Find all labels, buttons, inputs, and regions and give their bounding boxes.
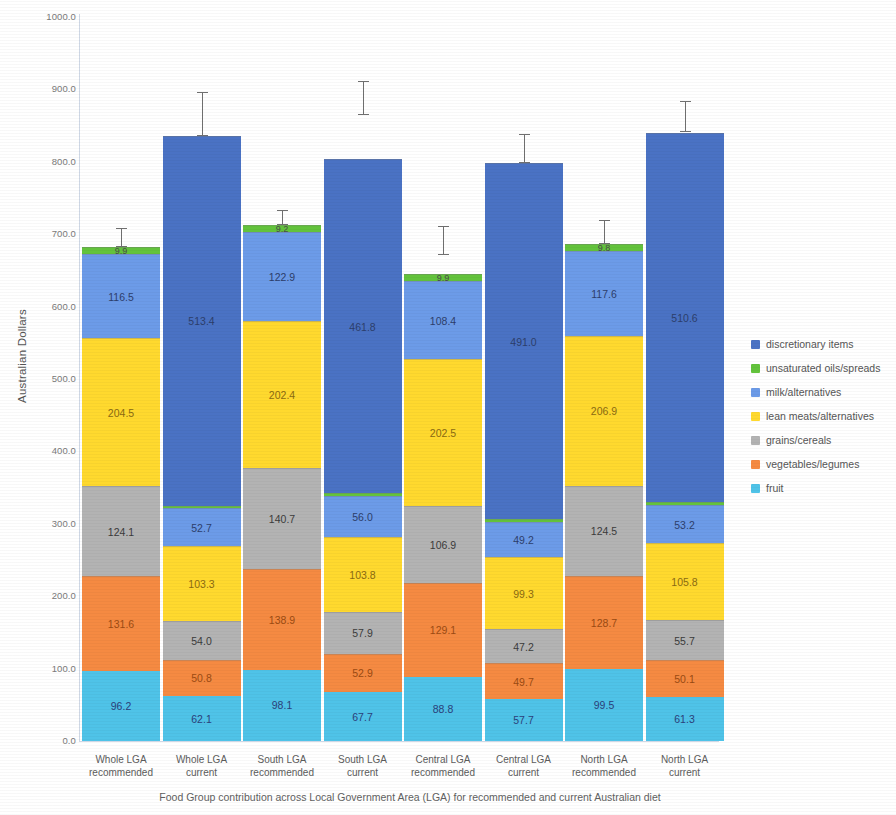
bar-segment-lean-meats-alternatives[interactable]: 105.8 bbox=[646, 543, 724, 620]
legend-item-milk-alternatives[interactable]: milk/alternatives bbox=[751, 380, 880, 404]
bar-segment-fruit[interactable]: 99.5 bbox=[565, 669, 643, 741]
segment-value-label: 138.9 bbox=[243, 614, 321, 626]
bar-whole-lga-recommended[interactable]: 96.2131.6124.1204.5116.59.9 bbox=[82, 247, 160, 741]
bar-segment-milk-alternatives[interactable]: 56.0 bbox=[324, 496, 402, 537]
bar-segment-unsaturated-oils-spreads[interactable] bbox=[485, 519, 563, 522]
bar-segment-vegetables-legumes[interactable]: 138.9 bbox=[243, 569, 321, 670]
y-axis-line bbox=[79, 14, 80, 741]
legend-item-fruit[interactable]: fruit bbox=[751, 476, 880, 500]
x-axis-tick-line: South LGA bbox=[237, 753, 327, 766]
bar-segment-lean-meats-alternatives[interactable]: 202.4 bbox=[243, 321, 321, 468]
bar-segment-discretionary-items[interactable]: 513.4 bbox=[163, 136, 241, 506]
bar-segment-grains-cereals[interactable]: 55.7 bbox=[646, 620, 724, 660]
bar-segment-milk-alternatives[interactable]: 52.7 bbox=[163, 508, 241, 546]
bar-segment-discretionary-items[interactable]: 491.0 bbox=[485, 163, 563, 518]
segment-value-label: 129.1 bbox=[404, 624, 482, 636]
bar-whole-lga-current[interactable]: 62.150.854.0103.352.7513.4 bbox=[163, 136, 241, 741]
x-axis-tick-line: current bbox=[157, 766, 247, 779]
error-bar bbox=[121, 228, 122, 247]
bar-central-lga-current[interactable]: 57.749.747.299.349.2491.0 bbox=[485, 163, 563, 741]
bar-segment-unsaturated-oils-spreads[interactable] bbox=[163, 506, 241, 509]
bar-segment-fruit[interactable]: 62.1 bbox=[163, 696, 241, 741]
legend-label: fruit bbox=[766, 482, 784, 494]
bar-segment-unsaturated-oils-spreads[interactable]: 9.9 bbox=[404, 274, 482, 281]
bar-segment-grains-cereals[interactable]: 54.0 bbox=[163, 621, 241, 660]
chart-legend: discretionary itemsunsaturated oils/spre… bbox=[751, 332, 880, 500]
segment-value-label: 9.9 bbox=[82, 247, 160, 254]
bar-segment-vegetables-legumes[interactable]: 49.7 bbox=[485, 663, 563, 699]
bar-segment-fruit[interactable]: 88.8 bbox=[404, 677, 482, 741]
x-axis-tick-7: North LGAcurrent bbox=[640, 753, 730, 779]
bar-segment-grains-cereals[interactable]: 124.1 bbox=[82, 486, 160, 576]
bar-segment-lean-meats-alternatives[interactable]: 204.5 bbox=[82, 338, 160, 486]
legend-swatch-icon bbox=[751, 460, 760, 469]
segment-value-label: 491.0 bbox=[485, 336, 563, 348]
bar-segment-milk-alternatives[interactable]: 122.9 bbox=[243, 232, 321, 321]
bar-segment-lean-meats-alternatives[interactable]: 103.3 bbox=[163, 546, 241, 620]
bar-north-lga-current[interactable]: 61.350.155.7105.853.2510.6 bbox=[646, 132, 724, 741]
bar-segment-vegetables-legumes[interactable]: 50.1 bbox=[646, 660, 724, 696]
bar-segment-fruit[interactable]: 96.2 bbox=[82, 671, 160, 741]
segment-value-label: 57.7 bbox=[485, 714, 563, 726]
bar-segment-lean-meats-alternatives[interactable]: 202.5 bbox=[404, 359, 482, 506]
x-axis-tick-line: recommended bbox=[76, 766, 166, 779]
bar-segment-vegetables-legumes[interactable]: 131.6 bbox=[82, 576, 160, 671]
legend-item-grains-cereals[interactable]: grains/cereals bbox=[751, 428, 880, 452]
x-axis-tick-line: recommended bbox=[398, 766, 488, 779]
bar-central-lga-recommended[interactable]: 88.8129.1106.9202.5108.49.9 bbox=[404, 274, 482, 741]
bar-segment-vegetables-legumes[interactable]: 128.7 bbox=[565, 576, 643, 669]
bar-segment-fruit[interactable]: 98.1 bbox=[243, 670, 321, 741]
segment-value-label: 124.1 bbox=[82, 526, 160, 538]
bar-segment-milk-alternatives[interactable]: 53.2 bbox=[646, 505, 724, 544]
x-axis-tick-line: North LGA bbox=[640, 753, 730, 766]
bar-south-lga-current[interactable]: 67.752.957.9103.856.0461.8 bbox=[324, 159, 402, 741]
legend-swatch-icon bbox=[751, 388, 760, 397]
bar-segment-milk-alternatives[interactable]: 108.4 bbox=[404, 281, 482, 359]
segment-value-label: 105.8 bbox=[646, 576, 724, 588]
segment-value-label: 131.6 bbox=[82, 618, 160, 630]
bar-segment-unsaturated-oils-spreads[interactable]: 9.9 bbox=[82, 247, 160, 254]
bar-segment-lean-meats-alternatives[interactable]: 103.8 bbox=[324, 537, 402, 612]
bar-segment-fruit[interactable]: 57.7 bbox=[485, 699, 563, 741]
bar-segment-unsaturated-oils-spreads[interactable] bbox=[646, 502, 724, 505]
bar-segment-vegetables-legumes[interactable]: 52.9 bbox=[324, 654, 402, 692]
bar-segment-milk-alternatives[interactable]: 49.2 bbox=[485, 522, 563, 558]
bar-north-lga-recommended[interactable]: 99.5128.7124.5206.9117.69.8 bbox=[565, 244, 643, 741]
x-axis-tick-line: South LGA bbox=[318, 753, 408, 766]
bar-segment-grains-cereals[interactable]: 106.9 bbox=[404, 506, 482, 583]
segment-value-label: 108.4 bbox=[404, 315, 482, 327]
bar-segment-milk-alternatives[interactable]: 117.6 bbox=[565, 251, 643, 336]
bar-segment-fruit[interactable]: 67.7 bbox=[324, 692, 402, 741]
bar-segment-grains-cereals[interactable]: 124.5 bbox=[565, 486, 643, 576]
segment-value-label: 56.0 bbox=[324, 511, 402, 523]
bar-segment-vegetables-legumes[interactable]: 129.1 bbox=[404, 583, 482, 676]
bar-segment-fruit[interactable]: 61.3 bbox=[646, 697, 724, 741]
bar-segment-vegetables-legumes[interactable]: 50.8 bbox=[163, 660, 241, 697]
x-axis-tick-line: North LGA bbox=[559, 753, 649, 766]
error-bar bbox=[282, 210, 283, 225]
bar-segment-lean-meats-alternatives[interactable]: 206.9 bbox=[565, 336, 643, 486]
legend-item-unsaturated-oils-spreads[interactable]: unsaturated oils/spreads bbox=[751, 356, 880, 380]
bar-segment-lean-meats-alternatives[interactable]: 99.3 bbox=[485, 557, 563, 629]
y-axis-tick: 100.0 bbox=[28, 663, 76, 674]
bar-segment-discretionary-items[interactable]: 461.8 bbox=[324, 159, 402, 493]
bar-segment-grains-cereals[interactable]: 57.9 bbox=[324, 612, 402, 654]
segment-value-label: 103.3 bbox=[163, 578, 241, 590]
segment-value-label: 140.7 bbox=[243, 513, 321, 525]
bar-segment-grains-cereals[interactable]: 47.2 bbox=[485, 629, 563, 663]
legend-label: unsaturated oils/spreads bbox=[766, 362, 880, 374]
legend-item-discretionary-items[interactable]: discretionary items bbox=[751, 332, 880, 356]
bar-segment-discretionary-items[interactable]: 510.6 bbox=[646, 133, 724, 503]
bar-segment-unsaturated-oils-spreads[interactable]: 9.2 bbox=[243, 225, 321, 232]
bar-segment-milk-alternatives[interactable]: 116.5 bbox=[82, 254, 160, 338]
y-axis-tick: 300.0 bbox=[28, 518, 76, 529]
bar-south-lga-recommended[interactable]: 98.1138.9140.7202.4122.99.2 bbox=[243, 225, 321, 741]
segment-value-label: 53.2 bbox=[646, 519, 724, 531]
bar-segment-unsaturated-oils-spreads[interactable]: 9.8 bbox=[565, 244, 643, 251]
x-axis-tick-line: Whole LGA bbox=[157, 753, 247, 766]
segment-value-label: 202.4 bbox=[243, 389, 321, 401]
legend-item-vegetables-legumes[interactable]: vegetables/legumes bbox=[751, 452, 880, 476]
bar-segment-grains-cereals[interactable]: 140.7 bbox=[243, 468, 321, 570]
bar-segment-unsaturated-oils-spreads[interactable] bbox=[324, 493, 402, 496]
legend-item-lean-meats-alternatives[interactable]: lean meats/alternatives bbox=[751, 404, 880, 428]
